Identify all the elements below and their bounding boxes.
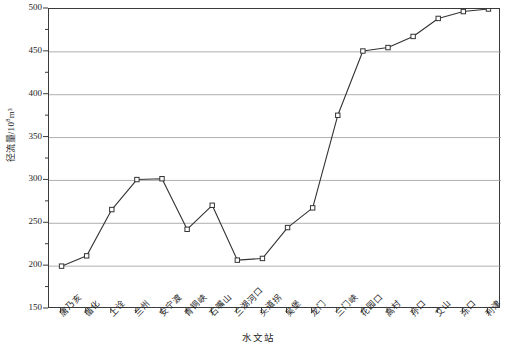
x-tick-label: 龙门 [309,299,328,318]
x-tick-label: 上诠 [108,299,127,318]
x-tick-label: 安宁渡 [158,292,184,318]
x-tick-label: 石嘴山 [208,292,234,318]
x-tick-label: 高村 [384,299,403,318]
x-tick-label: 兰州 [133,299,152,318]
x-tick-label: 头道拐 [258,292,284,318]
x-tick-label: 孙口 [409,299,428,318]
x-tick-label: 艾山 [434,299,453,318]
runoff-line-chart: 径流量/108m³ 150200250300350400450500 唐乃亥循化… [0,0,516,361]
x-axis-tick-labels: 唐乃亥循化上诠兰州安宁渡青铜峡石嘴山三湖河口头道拐吴堡龙门三门峡花园口高村孙口艾… [0,0,516,361]
x-tick-label: 利津 [484,299,503,318]
x-axis-title: 水文站 [0,333,516,344]
x-tick-label: 循化 [83,299,102,318]
x-tick-label: 青铜峡 [183,292,209,318]
x-tick-label: 泺口 [459,299,478,318]
x-tick-label: 吴堡 [284,299,303,318]
x-tick-label: 三门峡 [334,292,360,318]
x-tick-label: 花园口 [359,292,385,318]
x-tick-label: 唐乃亥 [58,292,84,318]
